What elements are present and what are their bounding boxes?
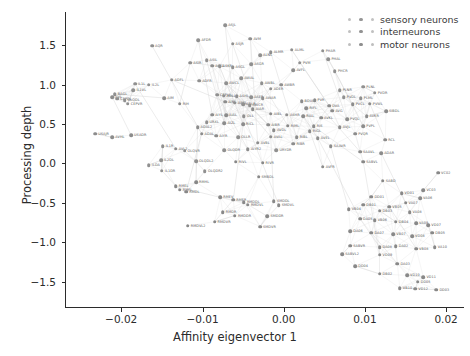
data-point[interactable] (233, 101, 237, 105)
data-point[interactable] (210, 64, 214, 68)
data-point[interactable] (351, 103, 355, 107)
data-point[interactable] (370, 195, 374, 199)
data-point[interactable] (405, 274, 409, 278)
data-point[interactable] (418, 196, 422, 200)
data-point[interactable] (126, 102, 130, 106)
data-point[interactable] (340, 252, 344, 256)
data-point[interactable] (298, 61, 302, 65)
data-point[interactable] (249, 95, 253, 99)
data-point[interactable] (213, 220, 217, 224)
data-point[interactable] (378, 253, 382, 257)
data-point[interactable] (362, 160, 366, 164)
data-point[interactable] (433, 245, 437, 249)
data-point[interactable] (285, 113, 289, 117)
data-point[interactable] (408, 211, 412, 215)
data-point[interactable] (414, 247, 418, 251)
data-point[interactable] (370, 231, 374, 235)
data-point[interactable] (312, 125, 316, 129)
data-point[interactable] (414, 287, 418, 291)
data-point[interactable] (150, 44, 154, 48)
data-point[interactable] (215, 93, 219, 97)
data-point[interactable] (414, 222, 418, 226)
data-point[interactable] (246, 203, 250, 207)
data-point[interactable] (231, 65, 235, 69)
data-point[interactable] (275, 148, 279, 152)
data-point[interactable] (132, 88, 136, 92)
data-point[interactable] (362, 85, 366, 89)
data-point[interactable] (115, 97, 119, 101)
data-point[interactable] (378, 272, 382, 276)
data-point[interactable] (234, 160, 238, 164)
data-point[interactable] (147, 163, 151, 167)
data-point[interactable] (353, 132, 357, 136)
data-point[interactable] (258, 54, 262, 58)
data-point[interactable] (186, 224, 190, 228)
data-point[interactable] (235, 95, 239, 99)
data-point[interactable] (261, 96, 265, 100)
legend-item-motor-neurons[interactable]: motor neurons (348, 38, 459, 51)
legend-item-interneurons[interactable]: interneurons (348, 26, 459, 39)
data-point[interactable] (147, 83, 151, 87)
data-point[interactable] (111, 95, 115, 99)
data-point[interactable] (365, 114, 369, 118)
data-point[interactable] (266, 123, 270, 127)
data-point[interactable] (384, 110, 388, 114)
data-point[interactable] (327, 58, 331, 62)
data-point[interactable] (174, 185, 178, 189)
data-point[interactable] (394, 220, 398, 224)
data-point[interactable] (196, 125, 200, 129)
data-point[interactable] (321, 165, 325, 169)
data-point[interactable] (241, 103, 245, 107)
data-point[interactable] (400, 192, 404, 196)
data-point[interactable] (398, 286, 402, 290)
data-point[interactable] (277, 203, 281, 207)
data-point[interactable] (246, 147, 250, 151)
data-point[interactable] (272, 129, 276, 133)
data-point[interactable] (349, 244, 353, 248)
data-point[interactable] (160, 169, 164, 173)
data-point[interactable] (223, 148, 227, 152)
data-point[interactable] (431, 231, 435, 235)
data-point[interactable] (338, 125, 342, 129)
data-point[interactable] (218, 65, 222, 69)
data-point[interactable] (93, 132, 97, 136)
data-point[interactable] (224, 114, 228, 118)
data-point[interactable] (178, 102, 182, 106)
data-point[interactable] (221, 211, 225, 215)
data-point[interactable] (133, 82, 137, 86)
data-point[interactable] (290, 48, 294, 52)
data-point[interactable] (269, 135, 273, 139)
data-point[interactable] (269, 112, 273, 116)
data-point[interactable] (260, 81, 264, 85)
data-point[interactable] (362, 203, 366, 207)
data-point[interactable] (194, 159, 198, 163)
data-point[interactable] (223, 100, 227, 104)
data-point[interactable] (269, 87, 273, 91)
data-point[interactable] (203, 170, 207, 174)
data-point[interactable] (396, 262, 400, 266)
data-point[interactable] (236, 136, 240, 140)
data-point[interactable] (170, 78, 174, 82)
data-point[interactable] (316, 136, 320, 140)
data-point[interactable] (224, 81, 228, 85)
data-point[interactable] (331, 109, 335, 113)
data-point[interactable] (256, 141, 260, 145)
data-point[interactable] (129, 133, 133, 137)
data-point[interactable] (313, 99, 317, 103)
data-point[interactable] (241, 122, 245, 126)
data-point[interactable] (194, 181, 198, 185)
data-point[interactable] (427, 223, 431, 227)
data-point[interactable] (258, 225, 262, 229)
data-point[interactable] (435, 288, 439, 292)
data-point[interactable] (422, 189, 426, 193)
data-point[interactable] (222, 94, 226, 98)
data-point[interactable] (232, 198, 236, 202)
data-point[interactable] (266, 215, 270, 219)
data-point[interactable] (286, 124, 290, 128)
data-point[interactable] (223, 121, 227, 125)
data-point[interactable] (197, 79, 201, 83)
data-point[interactable] (161, 144, 165, 148)
data-point[interactable] (416, 280, 420, 284)
data-point[interactable] (189, 61, 193, 65)
data-point[interactable] (379, 151, 383, 155)
